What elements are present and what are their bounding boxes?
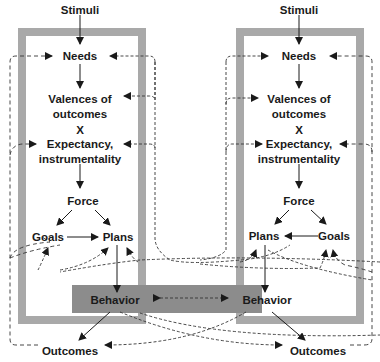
left-force-label: Force xyxy=(67,195,98,207)
left-plans-label: Plans xyxy=(103,231,134,243)
left-needs-label: Needs xyxy=(63,50,98,62)
left-outcomes-label: Outcomes xyxy=(42,345,98,357)
left-to-right-vertical xyxy=(200,62,226,260)
left-goals-label: Goals xyxy=(32,231,64,243)
right-force-goals-arrow xyxy=(311,210,326,224)
left-to-goals-arrow xyxy=(38,248,48,270)
right-expectancy-label-1: Expectancy, xyxy=(266,138,332,150)
right-valences-label-2: outcomes xyxy=(272,108,326,120)
right-goals-label: Goals xyxy=(318,230,350,242)
left-valences-label-2: outcomes xyxy=(53,108,107,120)
left-behavior-label: Behavior xyxy=(90,294,140,306)
right-needs-label: Needs xyxy=(282,50,317,62)
left-outcomes-needs-feedback xyxy=(10,56,52,345)
left-lower-cross-curve xyxy=(60,258,380,272)
right-stimuli-label: Stimuli xyxy=(280,4,318,16)
right-expectancy-label-2: instrumentality xyxy=(258,153,341,165)
left-force-goals-arrow xyxy=(57,210,72,225)
right-person-frame xyxy=(240,32,360,320)
right-force-plans-arrow xyxy=(275,210,289,224)
right-valences-label-1: Valences of xyxy=(267,93,330,105)
motivation-interaction-diagram: Stimuli Needs Valences of outcomes X Exp… xyxy=(0,0,380,362)
left-lower-curve xyxy=(10,245,60,258)
right-plans-label: Plans xyxy=(249,230,280,242)
right-times-label: X xyxy=(295,124,303,136)
left-to-plans-arrow xyxy=(60,248,108,270)
left-to-right-needs-feedback xyxy=(226,56,268,62)
left-expectancy-label-2: instrumentality xyxy=(39,153,122,165)
left-force-plans-arrow xyxy=(95,210,110,225)
left-stimuli-label: Stimuli xyxy=(61,4,99,16)
left-times-label: X xyxy=(76,124,84,136)
left-valences-label-1: Valences of xyxy=(48,93,111,105)
left-person-frame xyxy=(22,32,142,320)
right-outcomes-needs-feedback xyxy=(330,56,372,345)
right-force-label: Force xyxy=(283,195,314,207)
left-expectancy-label-1: Expectancy, xyxy=(47,138,113,150)
right-behavior-label: Behavior xyxy=(242,294,292,306)
right-to-left-needs-feedback xyxy=(110,56,155,62)
right-outcomes-label: Outcomes xyxy=(290,345,346,357)
left-plans-feedback-arrow xyxy=(127,248,138,262)
